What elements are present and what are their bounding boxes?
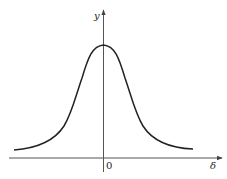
y-axis-label: y [93,10,100,21]
bell-curve-figure: y δ 0 [0,0,227,179]
x-axis-label: δ [210,160,216,171]
origin-label: 0 [106,160,112,171]
